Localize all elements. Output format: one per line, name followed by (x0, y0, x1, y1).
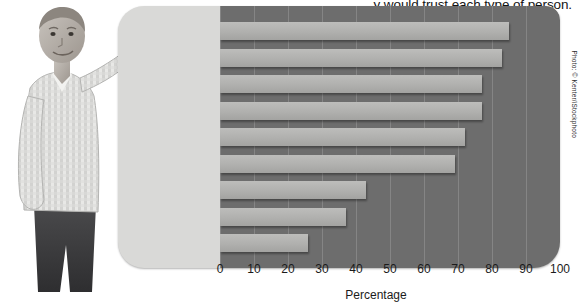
chart-panel: DoctorsTeachersScientistsPolice officers… (118, 6, 560, 268)
gridline (526, 6, 527, 268)
bar-lawyers (220, 234, 308, 252)
bar-journalists (220, 208, 346, 226)
x-tick-label: 100 (550, 262, 570, 276)
bar-teachers (220, 49, 502, 67)
bar-judges (220, 155, 455, 173)
bar-scientists (220, 75, 482, 93)
bar-military-officers (220, 128, 465, 146)
photo-credit: Photo: © Kenter/iStockphoto (571, 50, 578, 138)
bar-doctors (220, 22, 509, 40)
bar-police-officers (220, 102, 482, 120)
gridline (492, 6, 493, 268)
bar-tv-newscasters (220, 181, 366, 199)
plot-area (220, 6, 560, 268)
x-axis-label: Percentage (345, 288, 406, 302)
